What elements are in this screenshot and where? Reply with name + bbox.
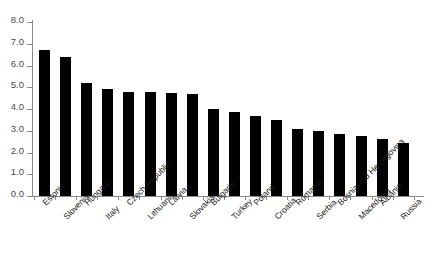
y-axis-tick-label: 3.0 <box>11 124 24 134</box>
x-axis-tick <box>34 196 35 200</box>
y-axis-tick-label: 7.0 <box>11 37 24 47</box>
bar <box>81 83 92 196</box>
y-axis-tick: 0.0 <box>27 196 33 197</box>
y-axis-tick-label: 8.0 <box>11 15 24 25</box>
bar <box>187 94 198 196</box>
y-axis-tick-label: 2.0 <box>11 146 24 156</box>
y-axis-tick-label: 1.0 <box>11 167 24 177</box>
bar <box>60 57 71 196</box>
bar <box>166 93 177 196</box>
bar <box>39 50 50 196</box>
bar <box>250 116 261 196</box>
bar <box>208 109 219 196</box>
bar <box>292 129 303 196</box>
y-axis-tick-label: 5.0 <box>11 80 24 90</box>
bar <box>334 134 345 196</box>
x-axis-tick <box>118 196 119 200</box>
x-axis-label: Italy <box>104 204 121 221</box>
y-axis-tick-label: 0.0 <box>11 189 24 199</box>
bar <box>123 92 134 196</box>
x-axis-label: Russia <box>399 197 423 221</box>
x-axis-label: Turkey <box>230 197 254 221</box>
bar-chart: 8.07.06.05.04.03.02.01.00.0 EstoniaSlove… <box>0 0 433 274</box>
x-axis-label: Serbia <box>315 198 338 221</box>
y-axis-tick-label: 6.0 <box>11 59 24 69</box>
y-axis-tick-label: 4.0 <box>11 102 24 112</box>
